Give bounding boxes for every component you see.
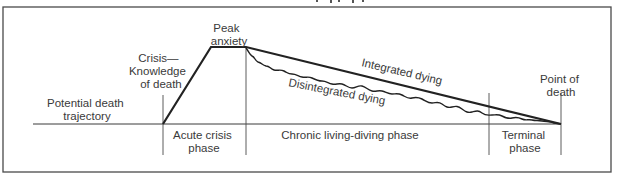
label-peak-anxiety: Peak anxiety — [211, 22, 248, 47]
label-integrated-dying: Integrated dying — [361, 56, 444, 87]
label-crisis: Crisis— Knowledge of death — [129, 52, 189, 90]
trajectory-diagram: Potential death trajectory Crisis— Knowl… — [0, 0, 617, 176]
label-phase-acute: Acute crisis phase — [173, 129, 235, 154]
label-potential-trajectory: Potential death trajectory — [47, 97, 127, 122]
label-disintegrated-dying: Disintegrated dying — [288, 76, 387, 107]
label-phase-terminal: Terminal phase — [502, 129, 549, 154]
label-phase-chronic: Chronic living-diving phase — [281, 129, 418, 141]
label-point-of-death: Point of death — [540, 73, 582, 98]
cut-off-title — [316, 0, 364, 3]
